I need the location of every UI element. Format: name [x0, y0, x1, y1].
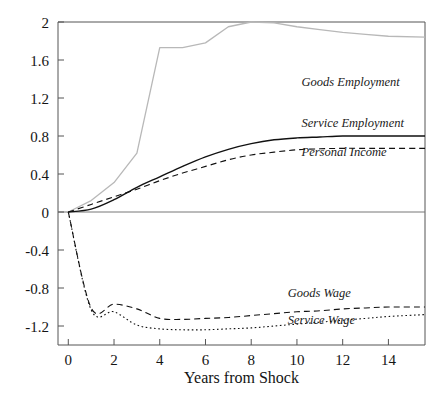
x-tick-label: 10 [289, 352, 304, 368]
series-label-personal-income: Personal Income [301, 145, 387, 159]
y-tick-label: 1.6 [30, 53, 49, 69]
chart-background [0, 0, 446, 403]
x-tick-label: 2 [110, 352, 118, 368]
series-label-service-wage: Service Wage [288, 313, 356, 327]
y-tick-label: -0.8 [25, 281, 49, 297]
y-tick-label: 0 [42, 205, 50, 221]
x-tick-label: 6 [202, 352, 210, 368]
y-tick-label: 1.2 [30, 91, 49, 107]
series-label-service-employment: Service Employment [302, 116, 405, 130]
y-tick-label: 2 [42, 15, 50, 31]
series-label-goods-employment: Goods Employment [302, 75, 401, 89]
y-tick-label: 0.4 [30, 167, 49, 183]
y-tick-label: -1.2 [25, 319, 49, 335]
x-tick-label: 0 [65, 352, 73, 368]
y-tick-label: -0.4 [25, 243, 49, 259]
impulse-response-chart: 02468101214 21.61.20.80.40-0.4-0.8-1.2 G… [0, 0, 446, 403]
x-tick-label: 14 [381, 352, 397, 368]
x-tick-label: 8 [247, 352, 255, 368]
chart-page: 02468101214 21.61.20.80.40-0.4-0.8-1.2 G… [0, 0, 446, 403]
x-axis-title: Years from Shock [184, 369, 299, 386]
y-tick-label: 0.8 [30, 129, 49, 145]
x-tick-label: 12 [335, 352, 350, 368]
x-tick-label: 4 [156, 352, 164, 368]
series-label-goods-wage: Goods Wage [288, 286, 352, 300]
